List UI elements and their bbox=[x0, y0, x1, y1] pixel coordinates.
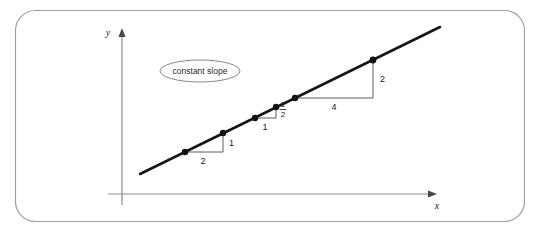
data-point bbox=[220, 130, 226, 136]
data-point bbox=[292, 95, 298, 101]
triangle-3-run-label: 4 bbox=[331, 102, 336, 112]
data-point bbox=[273, 104, 279, 110]
callout-label: constant slope bbox=[173, 66, 228, 76]
data-point bbox=[182, 149, 188, 155]
figure-border bbox=[16, 11, 525, 222]
triangle-1-rise-label: 1 bbox=[229, 138, 234, 148]
triangle-2-run-label: 1 bbox=[262, 122, 267, 132]
y-axis-label: y bbox=[105, 27, 111, 38]
constant-slope-callout: constant slope bbox=[160, 60, 240, 82]
constant-slope-figure: y x 2 1 1 1 2 4 2 bbox=[0, 0, 539, 238]
x-axis-label: x bbox=[434, 200, 440, 211]
data-point bbox=[252, 115, 258, 121]
figure-container: y x 2 1 1 1 2 4 2 bbox=[0, 0, 539, 238]
fraction-denominator: 2 bbox=[281, 110, 286, 119]
triangle-1-run-label: 2 bbox=[200, 156, 205, 166]
data-point bbox=[370, 57, 377, 64]
triangle-3-rise-label: 2 bbox=[380, 74, 385, 84]
